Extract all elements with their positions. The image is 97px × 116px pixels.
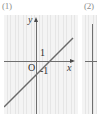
panel-2-label: (2) bbox=[84, 2, 94, 11]
line-segment bbox=[4, 38, 73, 107]
panel-2-plot-area bbox=[82, 15, 97, 114]
panel-2-x-axis bbox=[85, 61, 97, 62]
panel-1-x-axis bbox=[4, 61, 72, 62]
panel-1-x-axis-label: x bbox=[67, 63, 71, 73]
panel-1-origin-label: O bbox=[28, 63, 35, 73]
figure-panel-1: (1) y x O 1 -1 bbox=[0, 0, 80, 116]
panel-1-tick-label-y-one: 1 bbox=[40, 48, 45, 58]
panel-1-y-axis bbox=[36, 19, 37, 114]
figure-panel-2: (2) bbox=[82, 0, 97, 116]
panel-1-tick-label-x-negative-one: -1 bbox=[40, 66, 48, 76]
panel-1-y-axis-arrow-icon bbox=[34, 17, 38, 22]
panel-1-label: (1) bbox=[2, 2, 12, 11]
panel-2-y-axis bbox=[92, 24, 93, 114]
panel-1-y-axis-label: y bbox=[28, 15, 32, 25]
figure-sheet: (1) y x O 1 -1 (2) bbox=[0, 0, 97, 116]
